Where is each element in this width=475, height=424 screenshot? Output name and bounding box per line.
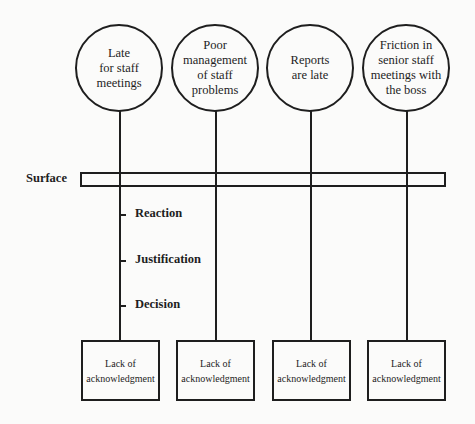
problem-circle-4: Friction in senior staff meetings with t… (362, 24, 450, 112)
root-cause-box-2: Lack of acknowledgment (176, 340, 255, 401)
level-label-justification: Justification (135, 252, 201, 267)
root-cause-label: Lack of acknowledgment (181, 356, 249, 386)
problem-circle-1: Late for staff meetings (75, 24, 163, 112)
level-tick-decision (120, 305, 126, 307)
surface-label: Surface (26, 171, 67, 186)
connector-line-4 (406, 110, 408, 342)
level-label-decision: Decision (135, 297, 180, 312)
problem-label: Poor management of staff problems (183, 38, 247, 98)
connector-line-3 (310, 110, 312, 342)
level-label-reaction: Reaction (135, 206, 182, 221)
root-cause-label: Lack of acknowledgment (372, 356, 440, 386)
root-cause-box-3: Lack of acknowledgment (272, 340, 351, 401)
connector-line-1 (119, 110, 121, 342)
root-cause-label: Lack of acknowledgment (86, 356, 154, 386)
level-tick-reaction (120, 214, 126, 216)
problem-label: Late for staff meetings (96, 46, 141, 91)
root-cause-box-1: Lack of acknowledgment (81, 340, 160, 401)
connector-line-2 (215, 110, 217, 342)
root-cause-label: Lack of acknowledgment (277, 356, 345, 386)
problem-label: Reports are late (291, 53, 330, 83)
problem-circle-2: Poor management of staff problems (171, 24, 259, 112)
problem-circle-3: Reports are late (266, 24, 354, 112)
surface-bar (80, 172, 446, 187)
level-tick-justification (120, 260, 126, 262)
root-cause-box-4: Lack of acknowledgment (367, 340, 446, 401)
problem-label: Friction in senior staff meetings with t… (371, 38, 441, 98)
